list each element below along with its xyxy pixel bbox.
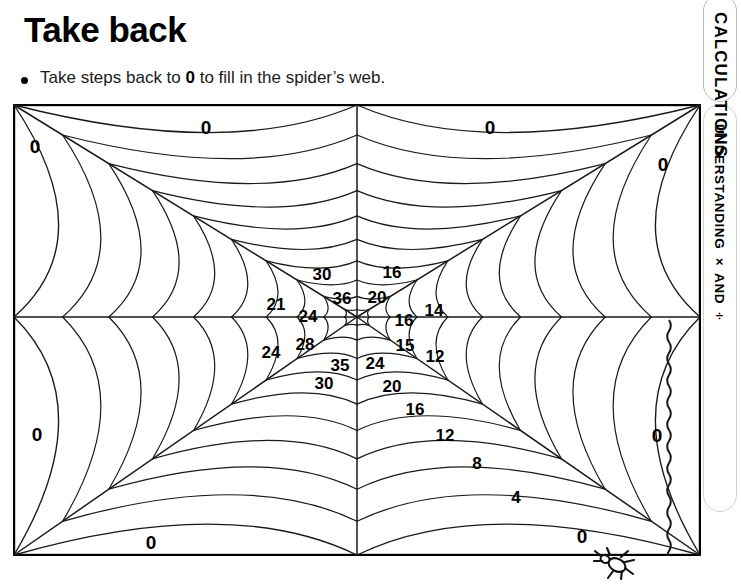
web-zero-right-upper: 0 bbox=[658, 155, 669, 174]
web-zero-right-lower: 0 bbox=[652, 426, 663, 445]
web-number: 30 bbox=[315, 375, 334, 392]
instruction-text: Take steps back to 0 to fill in the spid… bbox=[40, 68, 385, 88]
page-title: Take back bbox=[24, 10, 186, 50]
web-number: 20 bbox=[368, 289, 387, 306]
instruction-target-number: 0 bbox=[186, 68, 195, 87]
web-number: 16 bbox=[395, 312, 414, 329]
web-zero-top-left-of-centre: 0 bbox=[201, 118, 212, 137]
spider-figure bbox=[592, 546, 652, 585]
web-number: 24 bbox=[262, 344, 281, 361]
instruction-post: to fill in the spider’s web. bbox=[195, 68, 385, 87]
bullet-point bbox=[21, 77, 28, 84]
web-number: 28 bbox=[296, 336, 315, 353]
web-zero-bottom-left: 0 bbox=[146, 533, 157, 552]
web-number: 14 bbox=[425, 302, 444, 319]
web-number: 4 bbox=[511, 489, 520, 506]
instruction-pre: Take steps back to bbox=[40, 68, 186, 87]
spider-web-svg bbox=[13, 104, 701, 556]
web-number: 12 bbox=[436, 427, 455, 444]
web-number: 16 bbox=[383, 264, 402, 281]
spider-web-diagram: 3016362021241614242835241512302016128400… bbox=[13, 104, 701, 556]
worksheet-page: Take back Take steps back to 0 to fill i… bbox=[0, 0, 741, 585]
web-zero-bottom-right: 0 bbox=[577, 527, 588, 546]
web-number: 8 bbox=[472, 455, 481, 472]
web-number: 12 bbox=[426, 348, 445, 365]
web-number: 16 bbox=[406, 401, 425, 418]
sidebar-label-section: UNDERSTANDING × AND ÷ bbox=[712, 124, 727, 324]
web-zero-top-right-of-centre: 0 bbox=[485, 118, 496, 137]
web-number: 21 bbox=[267, 296, 286, 313]
web-number: 20 bbox=[383, 378, 402, 395]
web-zero-left-lower: 0 bbox=[32, 425, 43, 444]
web-number: 24 bbox=[366, 355, 385, 372]
web-number: 35 bbox=[331, 357, 350, 374]
web-number: 36 bbox=[333, 290, 352, 307]
web-number: 30 bbox=[313, 266, 332, 283]
web-number: 15 bbox=[396, 337, 415, 354]
web-number: 24 bbox=[299, 308, 318, 325]
web-zero-top-left-corner: 0 bbox=[30, 137, 41, 156]
